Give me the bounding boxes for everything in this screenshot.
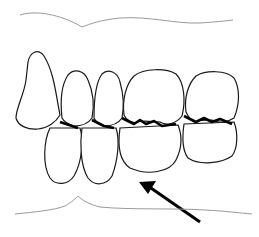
lower-tooth-1	[45, 128, 82, 183]
upper-tooth-5	[185, 72, 238, 122]
arrow-shaft	[148, 186, 200, 222]
upper-tooth-4	[123, 70, 184, 124]
upper-tooth-1	[16, 52, 60, 129]
lower-tooth-3	[119, 125, 181, 172]
upper-tooth-3	[94, 71, 123, 126]
upper-tooth-2	[61, 71, 93, 126]
lower-gum-line	[15, 196, 252, 214]
upper-gum-line	[20, 13, 233, 27]
teeth-diagram	[0, 0, 259, 237]
lower-tooth-4	[183, 122, 237, 163]
lower-tooth-2	[81, 128, 118, 184]
arrow-head-icon	[139, 181, 156, 194]
